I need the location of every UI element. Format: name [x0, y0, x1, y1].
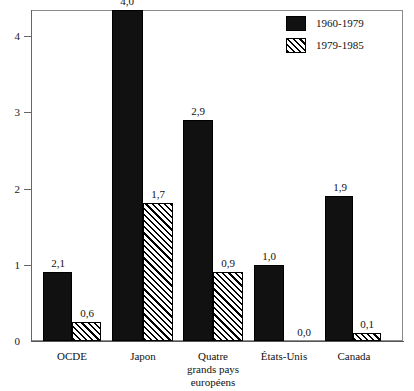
- y-axis-label-4: 4: [0, 31, 20, 42]
- bar-japon-1979-1985: [143, 203, 173, 341]
- x-axis-line: [31, 341, 404, 342]
- y-axis-line: [31, 10, 32, 342]
- x-axis-label-quatre-line-1: Quatre: [178, 350, 248, 363]
- bar-value-etats-unis-1979-1985: 0,0: [284, 327, 324, 338]
- bar-value-ocde-1979-1985: 0,6: [67, 308, 107, 319]
- y-axis-label-2: 2: [0, 184, 20, 195]
- x-axis-label-quatre-line-2: grands pays: [178, 363, 248, 376]
- bar-quatre-grands-pays-europeens-1979-1985: [213, 272, 243, 341]
- bar-japon-1960-1979: [112, 10, 143, 341]
- x-axis-label-ocde-line-1: OCDE: [42, 350, 102, 363]
- y-axis-label-3: 3: [0, 107, 20, 118]
- x-axis-label-japon: Japon: [113, 350, 173, 363]
- bar-value-canada-1960-1979: 1,9: [320, 182, 360, 193]
- legend-label-1979-1985: 1979-1985: [316, 38, 364, 53]
- bar-value-canada-1979-1985: 0,1: [347, 319, 387, 330]
- bar-value-japon-1960-1979: 4,0: [107, 0, 147, 7]
- bar-canada-1979-1985: [353, 333, 381, 341]
- bar-ocde-1979-1985: [72, 322, 101, 341]
- x-axis-label-ocde: OCDE: [42, 350, 102, 363]
- bar-value-ocde-1960-1979: 2,1: [38, 258, 78, 269]
- bar-value-etats-unis-1960-1979: 1,0: [249, 251, 289, 262]
- x-axis-label-etats-unis: États-Unis: [249, 350, 319, 363]
- y-axis-tick-1: [24, 265, 32, 266]
- bar-value-quatre-grands-pays-europeens-1979-1985: 0,9: [208, 258, 248, 269]
- legend-item-1979-1985: 1979-1985: [286, 35, 396, 57]
- bar-chart: 4 3 2 1 0 2,1 0,6 OCDE 4,0 1,7 Japon 2,9…: [0, 0, 414, 391]
- y-axis-tick-3: [24, 112, 32, 113]
- bar-value-japon-1979-1985: 1,7: [138, 189, 178, 200]
- legend-swatch-solid-icon: [286, 16, 306, 31]
- y-axis-tick-4: [24, 36, 32, 37]
- bar-ocde-1960-1979: [43, 272, 72, 341]
- chart-legend: 1960-1979 1979-1985: [286, 13, 396, 57]
- x-axis-label-quatre-grands-pays-europeens: Quatre grands pays européens: [178, 350, 248, 389]
- legend-item-1960-1979: 1960-1979: [286, 13, 396, 35]
- y-axis-tick-2: [24, 189, 32, 190]
- bar-etats-unis-1960-1979: [254, 265, 284, 341]
- y-axis-label-0: 0: [0, 336, 20, 347]
- x-axis-label-quatre-line-3: européens: [178, 376, 248, 389]
- x-axis-label-canada: Canada: [323, 350, 385, 363]
- x-axis-label-etats-unis-line-1: États-Unis: [249, 350, 319, 363]
- bar-value-quatre-grands-pays-europeens-1960-1979: 2,9: [178, 106, 218, 117]
- x-axis-label-japon-line-1: Japon: [113, 350, 173, 363]
- x-axis-label-canada-line-1: Canada: [323, 350, 385, 363]
- y-axis-label-1: 1: [0, 260, 20, 271]
- bar-quatre-grands-pays-europeens-1960-1979: [183, 120, 213, 341]
- legend-swatch-hatch-icon: [286, 38, 306, 53]
- legend-label-1960-1979: 1960-1979: [316, 16, 364, 31]
